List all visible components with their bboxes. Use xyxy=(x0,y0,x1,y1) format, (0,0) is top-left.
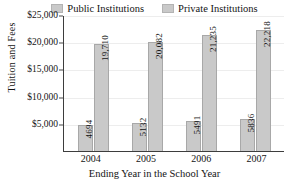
bar-private-2005[interactable]: 20,082 xyxy=(148,42,163,151)
bar-group-2007: 583622,218 xyxy=(228,16,282,151)
bar-private-2006[interactable]: 21,235 xyxy=(202,35,217,151)
legend-label-private: Private Institutions xyxy=(178,3,258,14)
y-axis-tick-label: $15,000 xyxy=(27,66,58,76)
bar-group-2006: 549121,235 xyxy=(174,16,228,151)
y-axis-tick-label: $10,000 xyxy=(27,93,58,103)
y-axis-tick-label: $25,000 xyxy=(27,11,58,21)
y-axis-tick-label: $20,000 xyxy=(27,38,58,48)
bar-group-2005: 513220,082 xyxy=(120,16,174,151)
y-axis-title: Tuition and Fees xyxy=(6,4,17,112)
plot-canvas: 469419,710513220,082549121,235583622,218 xyxy=(63,16,284,152)
legend-item-public: Public Institutions xyxy=(51,3,144,14)
y-axis-tick-labels: $5,000$10,000$15,000$20,000$25,000 xyxy=(18,16,63,152)
x-axis-title: Ending Year in the School Year xyxy=(0,167,287,180)
x-axis-tick-label-2007: 2007 xyxy=(229,153,284,166)
bar-public-2007[interactable]: 5836 xyxy=(240,119,255,151)
bar-private-2007[interactable]: 22,218 xyxy=(256,30,271,151)
legend-label-public: Public Institutions xyxy=(67,3,144,14)
x-axis-tick-label-2004: 2004 xyxy=(63,153,118,166)
bar-value-label: 21,235 xyxy=(209,27,218,53)
x-axis-tick-labels: 2004200520062007 xyxy=(63,153,284,166)
legend-swatch-private-icon xyxy=(162,4,174,13)
bar-public-2005[interactable]: 5132 xyxy=(132,123,147,151)
x-axis-tick-label-2006: 2006 xyxy=(174,153,229,166)
bar-public-2006[interactable]: 5491 xyxy=(186,121,201,151)
bar-private-2004[interactable]: 19,710 xyxy=(94,44,109,151)
bar-value-label: 19,710 xyxy=(101,35,110,61)
y-axis-tick-label: $5,000 xyxy=(32,120,58,130)
bar-value-label: 20,082 xyxy=(155,33,164,59)
bar-group-2004: 469419,710 xyxy=(66,16,120,151)
bar-groups: 469419,710513220,082549121,235583622,218 xyxy=(64,16,284,151)
plot-area: $5,000$10,000$15,000$20,000$25,000 46941… xyxy=(18,16,284,152)
bar-public-2004[interactable]: 4694 xyxy=(78,125,93,151)
x-axis-tick-label-2005: 2005 xyxy=(118,153,173,166)
bar-value-label: 22,218 xyxy=(263,21,272,47)
legend-item-private: Private Institutions xyxy=(162,3,258,14)
